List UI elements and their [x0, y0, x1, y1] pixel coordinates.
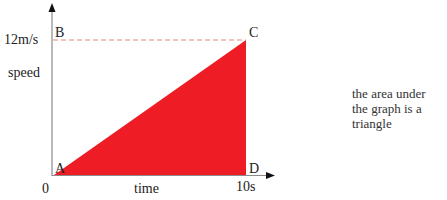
y-axis-label: speed: [8, 66, 40, 80]
note-line: the graph is a: [352, 101, 426, 116]
point-c-label: C: [249, 26, 258, 40]
point-d-label: D: [249, 162, 259, 176]
annotation-note: the area under the graph is a triangle: [352, 86, 426, 131]
x-origin-label: 0: [42, 182, 49, 196]
y-axis-arrow-icon: [49, 3, 56, 12]
x-axis-arrow-icon: [266, 172, 275, 179]
point-b-label: B: [55, 26, 64, 40]
x-tick-label: 10s: [236, 180, 255, 194]
y-tick-label: 12m/s: [4, 33, 38, 47]
point-a-label: A: [55, 162, 65, 176]
note-line: the area under: [352, 86, 426, 101]
area-triangle: [54, 40, 246, 175]
x-axis-label: time: [134, 182, 159, 196]
note-line: triangle: [352, 116, 426, 131]
